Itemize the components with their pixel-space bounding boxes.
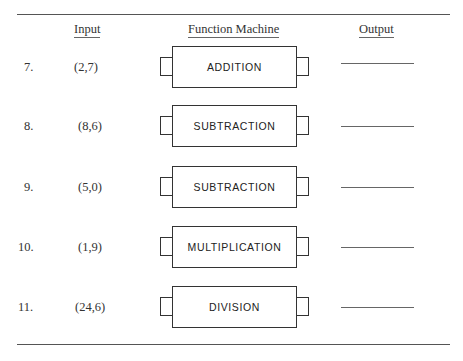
problem-number: 11. xyxy=(18,300,33,315)
input-value: (24,6) xyxy=(75,300,105,315)
problem-number: 9. xyxy=(24,180,33,195)
machine-input-slot xyxy=(160,177,172,196)
problem-row-11: 11. (24,6) DIVISION xyxy=(0,286,463,330)
input-value: (2,7) xyxy=(74,60,98,75)
machine-output-slot xyxy=(297,237,309,256)
header-function-machine: Function Machine xyxy=(188,22,279,38)
machine-output-slot xyxy=(297,177,309,196)
input-value: (1,9) xyxy=(78,240,102,255)
output-answer-blank[interactable] xyxy=(341,63,414,64)
problem-row-9: 9. (5,0) SUBTRACTION xyxy=(0,166,463,210)
output-answer-blank[interactable] xyxy=(341,187,414,188)
function-label: ADDITION xyxy=(207,61,262,73)
machine-body: DIVISION xyxy=(172,286,297,328)
machine-input-slot xyxy=(160,116,172,135)
function-label: DIVISION xyxy=(209,301,260,313)
output-answer-blank[interactable] xyxy=(341,126,414,127)
header-input: Input xyxy=(74,22,100,38)
machine-body: SUBTRACTION xyxy=(172,105,297,147)
function-machine: MULTIPLICATION xyxy=(160,226,310,268)
bottom-rule xyxy=(17,344,450,345)
output-answer-blank[interactable] xyxy=(341,307,414,308)
machine-body: ADDITION xyxy=(172,46,297,88)
problem-number: 8. xyxy=(24,119,33,134)
output-answer-blank[interactable] xyxy=(341,247,414,248)
function-label: MULTIPLICATION xyxy=(188,241,282,253)
header-output: Output xyxy=(359,22,394,38)
function-machine: DIVISION xyxy=(160,286,310,328)
function-label: SUBTRACTION xyxy=(194,181,276,193)
machine-input-slot xyxy=(160,237,172,256)
top-rule xyxy=(17,14,450,15)
machine-output-slot xyxy=(297,297,309,316)
machine-output-slot xyxy=(297,57,309,76)
machine-input-slot xyxy=(160,297,172,316)
input-value: (8,6) xyxy=(78,119,102,134)
function-machine: SUBTRACTION xyxy=(160,166,310,208)
function-machine: SUBTRACTION xyxy=(160,105,310,147)
function-label: SUBTRACTION xyxy=(194,120,276,132)
machine-input-slot xyxy=(160,57,172,76)
function-machine: ADDITION xyxy=(160,46,310,88)
input-value: (5,0) xyxy=(78,180,102,195)
machine-body: MULTIPLICATION xyxy=(172,226,297,268)
machine-body: SUBTRACTION xyxy=(172,166,297,208)
problem-row-10: 10. (1,9) MULTIPLICATION xyxy=(0,226,463,270)
problem-number: 10. xyxy=(18,240,34,255)
machine-output-slot xyxy=(297,116,309,135)
problem-row-7: 7. (2,7) ADDITION xyxy=(0,46,463,90)
problem-number: 7. xyxy=(24,60,33,75)
problem-row-8: 8. (8,6) SUBTRACTION xyxy=(0,105,463,149)
